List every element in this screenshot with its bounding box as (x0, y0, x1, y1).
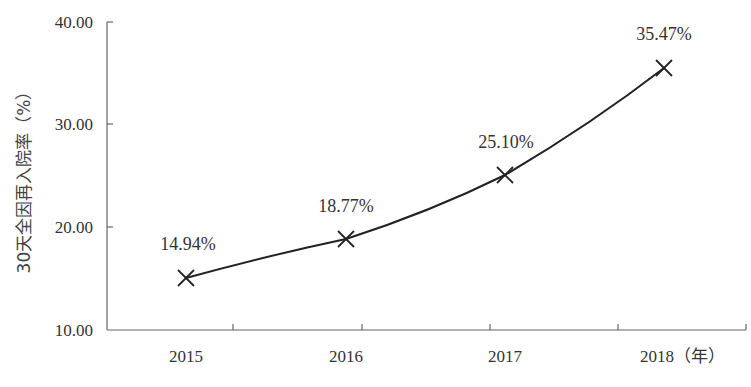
data-labels: 14.94% 18.77% 25.10% 35.47% (160, 24, 692, 254)
series-markers (178, 60, 672, 286)
x-tick-labels: 2015 2016 2017 2018（年） (169, 347, 725, 366)
x-tick-label-with-unit: 2018（年） (640, 347, 725, 366)
x-marker-icon (497, 167, 513, 183)
axes (107, 22, 746, 330)
y-axis-title: 30天全因再入院率（%） (14, 83, 34, 274)
y-tick-label: 20.00 (55, 218, 93, 237)
x-marker-icon (338, 231, 354, 247)
y-tick-label: 30.00 (55, 115, 93, 134)
x-tick-label: 2017 (488, 347, 523, 366)
line-chart: 30天全因再入院率（%） 40.00 30.00 20.00 10.00 201… (0, 0, 751, 387)
data-label: 25.10% (478, 132, 534, 152)
y-tick-label: 10.00 (55, 321, 93, 340)
series-line (186, 68, 664, 278)
y-tick-labels: 40.00 30.00 20.00 10.00 (55, 13, 93, 340)
x-tick-label: 2016 (329, 347, 363, 366)
data-label: 35.47% (636, 24, 692, 44)
x-tick-label: 2015 (169, 347, 203, 366)
x-marker-icon (656, 60, 672, 76)
x-marker-icon (178, 270, 194, 286)
data-label: 18.77% (318, 196, 374, 216)
data-label: 14.94% (160, 234, 216, 254)
y-tick-label: 40.00 (55, 13, 93, 32)
